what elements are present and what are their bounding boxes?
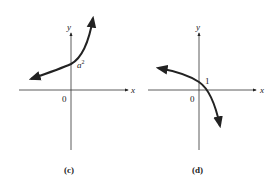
figure-canvas: y x 0 a2 (c) y x 0 1 (d) [0,0,278,187]
origin-label: 0 [190,94,195,104]
intercept-label: a2 [77,59,85,70]
intercept-label: 1 [205,76,210,86]
x-axis-label: x [259,85,264,95]
panel-caption: (d) [192,165,203,175]
x-axis-label: x [130,85,135,95]
y-axis-label: y [195,22,200,32]
graph-panel-d: y x 0 1 (d) [148,22,264,175]
panel-caption: (c) [64,165,74,175]
graph-panel-c: y x 0 a2 (c) [19,18,135,175]
y-axis-label: y [66,22,71,32]
exponential-curve [31,18,93,79]
origin-label: 0 [62,94,67,104]
decreasing-curve [158,68,220,126]
